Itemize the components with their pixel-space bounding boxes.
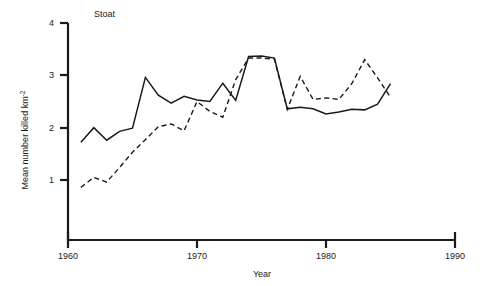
y-tick-label-2: 2 (49, 123, 54, 133)
x-tick-label-1970: 1970 (187, 251, 207, 261)
stoat-line-chart: 4 3 2 1 Mean number killed km-2 1960 197… (0, 0, 485, 286)
y-axis-title-group: Mean number killed km-2 (19, 90, 30, 189)
y-axis-title-text: Mean number killed km (20, 96, 30, 189)
x-axis-title: Year (253, 269, 271, 279)
x-tick-label-1960: 1960 (58, 251, 78, 261)
chart-figure: 4 3 2 1 Mean number killed km-2 1960 197… (0, 0, 485, 286)
y-axis-title: Mean number killed km-2 (19, 90, 30, 189)
y-tick-label-3: 3 (49, 70, 54, 80)
y-axis-title-exponent: -2 (19, 90, 26, 96)
y-tick-label-1: 1 (49, 175, 54, 185)
y-tick-label-4: 4 (49, 18, 54, 28)
x-tick-label-1990: 1990 (445, 251, 465, 261)
x-tick-label-1980: 1980 (316, 251, 336, 261)
panel-title: Stoat (94, 9, 116, 19)
chart-background (0, 0, 485, 286)
